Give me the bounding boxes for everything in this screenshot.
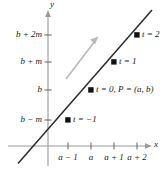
data-point-t-1 xyxy=(111,59,116,64)
point-label-t-0: t = 0, P = (a, b) xyxy=(96,85,153,94)
direction-arrow-icon xyxy=(66,37,99,80)
data-point-t-2 xyxy=(134,32,139,37)
y-tick-label-b-plus-m: b + m xyxy=(0,57,42,66)
y-tick-label-b-minus-m: b − m xyxy=(0,115,42,124)
x-axis-name: x xyxy=(154,140,158,149)
y-axis xyxy=(45,10,51,166)
y-tick-label-b: b xyxy=(0,85,42,94)
x-axis xyxy=(8,143,152,149)
point-label-t-1: t = 1 xyxy=(119,57,137,66)
point-label-t-minus-1: t = −1 xyxy=(73,115,97,124)
y-tick-label-b-plus-2m: b + 2m xyxy=(0,30,42,39)
y-axis-name: y xyxy=(50,0,54,9)
x-tick-label-a-plus-2: a + 2 xyxy=(122,153,152,162)
data-point-t-minus-1 xyxy=(65,117,70,122)
parametric-line-figure: y x b + 2m b + m b b − m a − 1 a a + 1 a… xyxy=(0,0,163,170)
data-points xyxy=(65,32,139,122)
data-point-t-0 xyxy=(88,87,93,92)
point-label-t-2: t = 2 xyxy=(142,30,160,39)
